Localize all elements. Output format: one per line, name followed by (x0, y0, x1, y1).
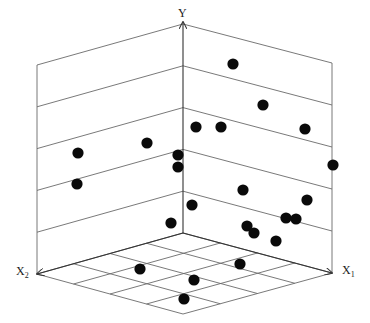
x2-axis (37, 233, 183, 274)
right-wall-gridline (183, 66, 332, 105)
x2-axis-label: X2 (16, 264, 29, 280)
data-point (248, 227, 259, 238)
left-wall-gridline (37, 24, 183, 65)
data-point (188, 274, 199, 285)
data-point (165, 217, 176, 228)
x1-axis-subscript: 1 (351, 270, 355, 279)
data-point (301, 194, 312, 205)
left-wall-gridline (37, 66, 183, 107)
data-point (280, 212, 291, 223)
data-point (327, 159, 338, 170)
data-point (299, 123, 310, 134)
left-wall-gridline (37, 191, 183, 232)
x1-axis-label-text: X (342, 263, 351, 277)
data-point (141, 137, 152, 148)
left-wall-gridline (37, 108, 183, 149)
y-axis-label-text: Y (178, 6, 187, 20)
data-point (186, 199, 197, 210)
x2-axis-label-text: X (16, 264, 25, 278)
data-point (257, 99, 268, 110)
axes (37, 22, 332, 274)
data-point (234, 258, 245, 269)
data-point (190, 121, 201, 132)
left-wall-gridline (37, 149, 183, 190)
x1-axis-label: X1 (342, 263, 355, 279)
data-point (172, 149, 183, 160)
data-point (215, 121, 226, 132)
data-point (237, 184, 248, 195)
data-point (72, 147, 83, 158)
data-point (227, 58, 238, 69)
data-point (270, 235, 281, 246)
right-wall-gridline (183, 24, 332, 63)
right-wall-gridline (183, 149, 332, 189)
y-axis-label: Y (178, 6, 187, 21)
scatter-3d-chart (0, 0, 370, 323)
x2-axis-subscript: 2 (25, 271, 29, 280)
data-point (172, 161, 183, 172)
x1-axis (183, 233, 332, 273)
data-point (71, 178, 82, 189)
data-point (134, 263, 145, 274)
data-point (290, 213, 301, 224)
data-point (178, 293, 189, 304)
